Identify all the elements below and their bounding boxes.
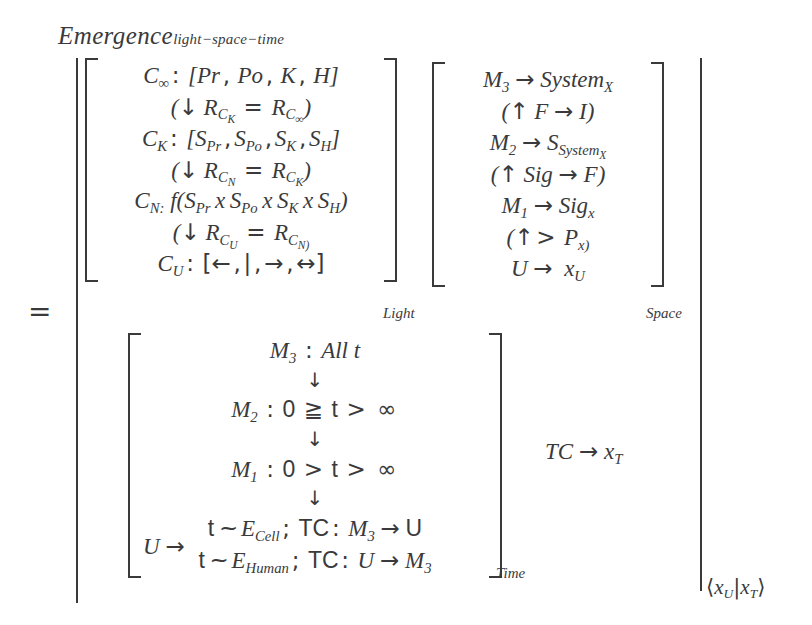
matrix-light-row-5: CN: f(SPr x SPo x SK x SH) — [102, 186, 380, 217]
matrix-light: C∞: [Pr, Po, K, H] (↓ RCK = RC∞) CK: [SP… — [85, 58, 397, 282]
matrix-time-row-3: M2 : 0 ≧ t > ∞ — [145, 394, 485, 426]
matrix-space-row-2: (↑ F → I) — [449, 96, 647, 128]
matrix-space-row-3: M2 → SSystemX — [449, 127, 647, 159]
matrix-space-label: Space — [646, 305, 682, 322]
matrix-space-rows: M3 → SystemX (↑ F → I) M2 → SSystemX (↑ … — [445, 62, 651, 287]
matrix-light-row-4: (↓ RCN = RCK) — [102, 155, 380, 187]
matrix-time-rows: M3 : All t ↓ M2 : 0 ≧ t > ∞ ↓ M1 : 0 > t… — [141, 333, 489, 578]
matrix-space-bracket-left — [432, 62, 445, 287]
matrix-light-rows: C∞: [Pr, Po, K, H] (↓ RCK = RC∞) CK: [SP… — [98, 58, 384, 282]
matrix-light-row-6: (↓ RCU = RCN) — [102, 217, 380, 249]
expression-title: Emergencelight−space−time — [58, 22, 284, 50]
matrix-time-row-7: t ~ECell; TC: M3 → U — [145, 513, 485, 545]
matrix-space-row-6: (↑> Px) — [449, 222, 647, 254]
matrix-space-bracket-right — [651, 62, 664, 287]
matrix-light-bracket-left — [85, 58, 98, 282]
matrix-light-row-7: CU: [←,|,→,↔] — [102, 248, 380, 280]
tc-term: TC → xT — [545, 438, 622, 465]
outer-delimiter-left-bar — [76, 58, 78, 603]
matrix-time-row-6-arrow: ↓ — [145, 485, 485, 513]
matrix-time: M3 : All t ↓ M2 : 0 ≧ t > ∞ ↓ M1 : 0 > t… — [128, 333, 502, 578]
matrix-time-bracket-right — [489, 333, 502, 578]
matrix-space-row-5: M1 → Sigx — [449, 190, 647, 222]
matrix-space: M3 → SystemX (↑ F → I) M2 → SSystemX (↑ … — [432, 62, 664, 287]
matrix-time-bracket-left — [128, 333, 141, 578]
matrix-light-row-3: CK: [SPr,SPo,SK,SH] — [102, 123, 380, 155]
matrix-time-label: Time — [496, 565, 525, 582]
matrix-light-label: Light — [383, 305, 415, 322]
matrix-time-row-1: M3 : All t — [145, 335, 485, 367]
matrix-space-row-1: M3 → SystemX — [449, 64, 647, 96]
matrix-time-row-5: M1 : 0 > t > ∞ — [145, 454, 485, 486]
title-base: Emergence — [58, 22, 173, 49]
matrix-time-row-2-arrow: ↓ — [145, 367, 485, 395]
matrix-space-row-4: (↑ Sig → F) — [449, 159, 647, 191]
relation-equals: = — [28, 295, 51, 328]
title-subscript: light−space−time — [173, 31, 284, 47]
matrix-light-row-1: C∞: [Pr, Po, K, H] — [102, 60, 380, 92]
matrix-space-row-7: U → xU — [449, 253, 647, 285]
matrix-time-row-4-arrow: ↓ — [145, 426, 485, 454]
braket-inner-product: ⟨xU|xT⟩ — [706, 575, 765, 600]
matrix-time-prefix: U → — [143, 533, 185, 560]
matrix-time-row-8: t ~EHuman; TC: U → M3 — [145, 545, 485, 577]
outer-delimiter-right-bar — [700, 58, 702, 591]
matrix-light-row-2: (↓ RCK = RC∞) — [102, 92, 380, 124]
matrix-light-bracket-right — [384, 58, 397, 282]
